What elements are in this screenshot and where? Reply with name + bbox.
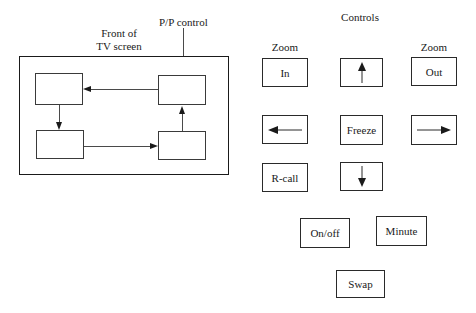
zoom-out-button[interactable]: Out xyxy=(411,57,457,86)
connector-bottom-right-to-top-right xyxy=(182,113,183,131)
arrowhead-left-top xyxy=(83,86,91,92)
arrow-up-icon xyxy=(356,62,368,83)
swap-button[interactable]: Swap xyxy=(336,270,385,298)
tv-box-top-right[interactable] xyxy=(158,75,206,105)
up-button[interactable] xyxy=(340,58,383,87)
front-of-tv-label-line2: TV screen xyxy=(88,40,150,52)
connector-top-right-to-top-left xyxy=(91,89,158,90)
arrowhead-right-bottom xyxy=(150,143,158,149)
arrowhead-down-left xyxy=(56,122,62,130)
screenshot-root: Front of TV screen P/P control Controls … xyxy=(0,0,476,313)
left-button[interactable] xyxy=(262,115,308,144)
arrow-right-icon xyxy=(417,124,451,136)
tv-box-bottom-left[interactable] xyxy=(36,130,84,159)
minute-button[interactable]: Minute xyxy=(376,216,427,246)
tv-box-bottom-right[interactable] xyxy=(158,131,206,160)
pp-control-label: P/P control xyxy=(159,16,208,28)
freeze-button[interactable]: Freeze xyxy=(340,115,383,145)
arrow-left-icon xyxy=(268,124,302,136)
front-of-tv-label-line1: Front of xyxy=(88,27,150,39)
connector-bottom-left-to-bottom-right xyxy=(84,146,150,147)
recall-button[interactable]: R-call xyxy=(262,163,308,192)
controls-title: Controls xyxy=(320,11,400,23)
zoom-out-caption: Zoom xyxy=(411,41,457,53)
arrow-down-icon xyxy=(356,166,368,187)
arrowhead-up-right xyxy=(179,106,185,114)
zoom-in-button[interactable]: In xyxy=(262,58,308,87)
onoff-button[interactable]: On/off xyxy=(300,218,350,248)
connector-top-left-to-bottom-left xyxy=(59,105,60,123)
right-button[interactable] xyxy=(411,115,457,145)
tv-box-top-left[interactable] xyxy=(35,73,83,105)
down-button[interactable] xyxy=(340,162,383,191)
zoom-in-caption: Zoom xyxy=(262,41,308,53)
